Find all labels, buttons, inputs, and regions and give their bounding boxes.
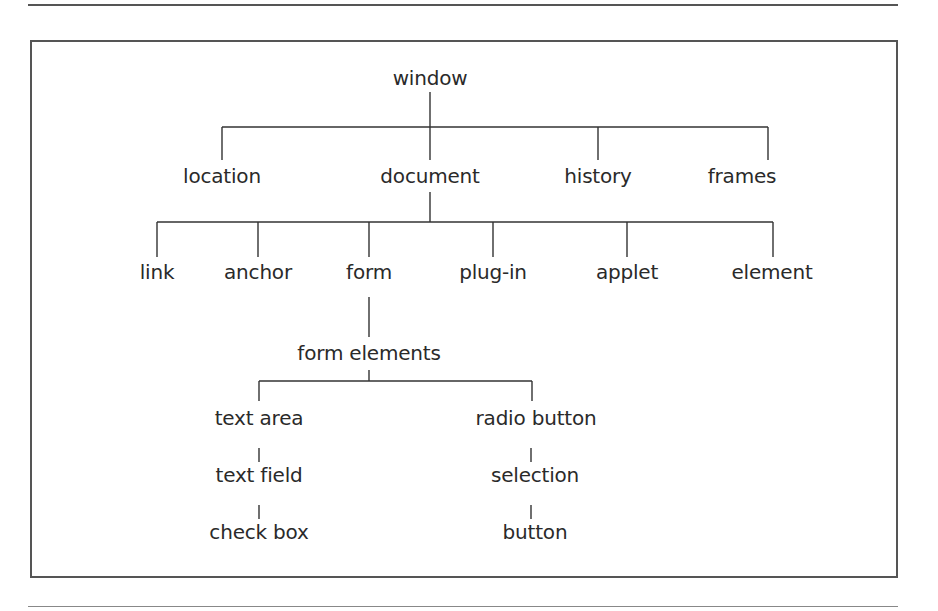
node-check-box: check box (209, 520, 308, 544)
node-window: window (393, 66, 468, 90)
node-anchor: anchor (224, 260, 292, 284)
node-form-elements: form elements (297, 341, 440, 365)
node-text-field: text field (216, 463, 303, 487)
node-radio-button: radio button (476, 406, 597, 430)
node-plug-in: plug-in (459, 260, 527, 284)
node-element: element (731, 260, 812, 284)
tree-connectors (0, 0, 938, 611)
node-form: form (346, 260, 392, 284)
node-applet: applet (596, 260, 658, 284)
node-link: link (140, 260, 175, 284)
node-frames: frames (708, 164, 777, 188)
node-history: history (564, 164, 631, 188)
node-selection: selection (491, 463, 579, 487)
node-text-area: text area (215, 406, 304, 430)
node-document: document (380, 164, 479, 188)
node-location: location (183, 164, 261, 188)
node-button: button (503, 520, 568, 544)
